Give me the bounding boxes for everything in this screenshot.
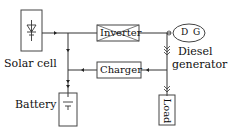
solar-diode-icon xyxy=(27,20,36,41)
inverter-label: Inverter xyxy=(100,28,141,38)
arrow-icon xyxy=(66,80,70,83)
arrow-icon xyxy=(81,68,84,72)
solar-cell-label: Solar cell xyxy=(4,58,57,69)
generator-label: generator xyxy=(172,59,227,70)
arrow-icon xyxy=(146,68,149,72)
arrow-icon xyxy=(66,49,70,52)
dg-symbol-label: D G xyxy=(181,28,201,37)
arrow-icon xyxy=(66,85,70,88)
battery-label: Battery xyxy=(15,99,56,110)
battery-icon xyxy=(63,102,73,110)
load-label: Load xyxy=(162,96,172,126)
arrow-icon xyxy=(54,31,57,35)
charger-label: Charger xyxy=(100,65,142,75)
diesel-label: Diesel xyxy=(178,46,213,57)
